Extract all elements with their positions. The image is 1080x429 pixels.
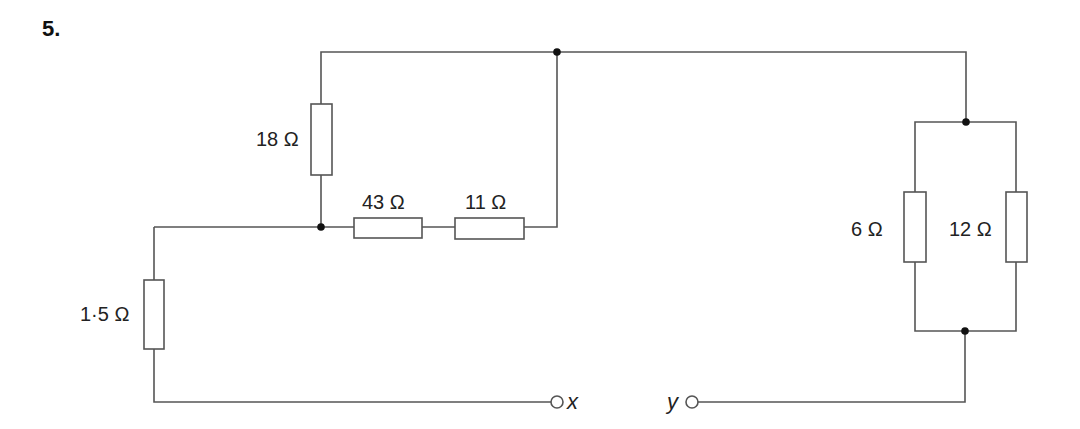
top-wire [321,52,966,122]
junction-node-top [553,48,561,56]
label-18: 18 Ω [256,128,299,150]
label-6: 6 Ω [851,218,883,240]
terminal-y-icon [686,396,698,408]
circuit-diagram: 5. x y 18 Ω 43 Ω 11 Ω 1·5 Ω 6 Ω 12 Ω [0,0,1080,429]
resistor-12 [1006,192,1027,262]
wire-parallel-top [915,122,1016,192]
junction-node-parallel-bottom [961,327,969,335]
label-43: 43 Ω [362,191,405,213]
wire-right-to-y [698,331,965,402]
resistor-18 [311,104,332,175]
resistor-43 [354,218,422,238]
resistor-11 [455,218,524,239]
label-1-5: 1·5 Ω [80,303,129,325]
terminal-y-label: y [665,389,680,414]
wire-11-to-top [524,52,557,227]
label-12: 12 Ω [949,218,992,240]
question-number: 5. [42,16,60,41]
terminal-x-label: x [566,389,579,414]
resistor-6 [904,192,926,262]
wire-left-bottom-to-x [154,349,551,402]
resistor-1-5 [144,280,164,349]
wires [154,52,1016,402]
junction-node-parallel-top [962,118,970,126]
junction-node-left [317,223,325,231]
wire-parallel-bottom [915,262,1016,331]
label-11: 11 Ω [465,191,506,213]
terminal-x-icon [551,396,563,408]
